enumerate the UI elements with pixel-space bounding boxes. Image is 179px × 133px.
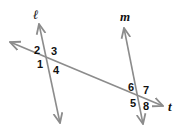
angle-8: 8 <box>143 100 149 112</box>
angle-1: 1 <box>37 58 43 70</box>
line-m <box>124 28 143 124</box>
angle-3: 3 <box>51 45 57 57</box>
label-t: t <box>168 99 172 114</box>
angle-2: 2 <box>34 44 40 56</box>
angle-6: 6 <box>128 81 134 93</box>
line-t <box>10 42 163 106</box>
label-l: ℓ <box>33 7 39 22</box>
label-m: m <box>120 9 130 24</box>
angle-7: 7 <box>143 84 149 96</box>
angle-4: 4 <box>53 64 60 76</box>
angle-5: 5 <box>130 97 136 109</box>
diagram-canvas: ℓ m t 2 3 1 4 6 7 5 8 <box>0 0 179 133</box>
